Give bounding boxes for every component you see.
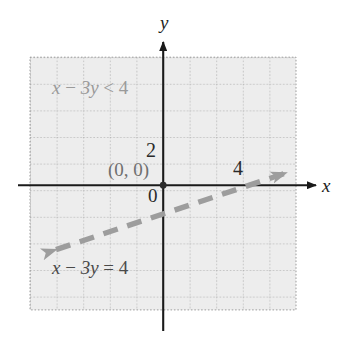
equation-minus: − xyxy=(60,257,80,278)
coordinate-plane-svg xyxy=(0,0,339,341)
y-axis-label: y xyxy=(160,13,168,32)
equation-relation: = xyxy=(99,257,119,278)
test-point-marker xyxy=(160,182,167,189)
graph-figure: y x 2 4 0 (0, 0) x − 3y < 4 x − 3y = 4 xyxy=(0,0,339,341)
inequality-term: 3y xyxy=(81,77,99,98)
inequality-relation: < xyxy=(99,77,119,98)
inequality-label: x − 3y < 4 xyxy=(52,78,128,97)
x-tick-label-4: 4 xyxy=(233,158,243,178)
x-axis-label: x xyxy=(322,176,330,195)
y-tick-label-2: 2 xyxy=(146,140,156,160)
equation-rhs: 4 xyxy=(119,257,129,278)
inequality-minus: − xyxy=(60,77,80,98)
equation-term: 3y xyxy=(81,257,99,278)
inequality-rhs: 4 xyxy=(119,77,129,98)
origin-label: 0 xyxy=(148,186,158,205)
test-point-label: (0, 0) xyxy=(108,160,149,179)
equation-label: x − 3y = 4 xyxy=(52,258,128,277)
